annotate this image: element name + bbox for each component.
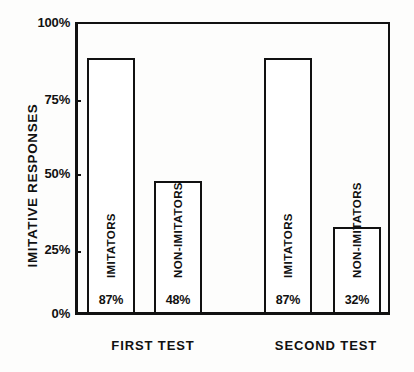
bar-value-first-test-non-imitators: 48% (156, 293, 200, 307)
bar-value-second-test-imitators: 87% (266, 293, 310, 307)
bar-first-test-non-imitators: NON-IMITATORS 48% (154, 181, 202, 312)
bar-label-first-test-non-imitators: NON-IMITATORS (166, 182, 178, 278)
y-tick-label-50: 50% (26, 166, 70, 181)
bar-label-second-test-non-imitators: NON-IMITATORS (345, 182, 357, 278)
y-tick-label-0: 0% (26, 306, 70, 321)
bar-first-test-imitators: IMITATORS 87% (87, 58, 135, 312)
bar-second-test-imitators: IMITATORS 87% (264, 58, 312, 312)
y-tick-label-25: 25% (26, 242, 70, 257)
y-axis-tick-labels: 100% 75% 50% 25% 0% (20, 0, 70, 372)
bar-value-second-test-non-imitators: 32% (335, 293, 379, 307)
y-tick-label-75: 75% (26, 92, 70, 107)
x-group-label-second-test: SECOND TEST (256, 338, 396, 353)
bar-value-first-test-imitators: 87% (89, 293, 133, 307)
plot-area: IMITATORS 87% NON-IMITATORS 48% IMITATOR… (75, 22, 390, 315)
x-group-label-first-test: FIRST TEST (88, 338, 218, 353)
bar-label-first-test-imitators: IMITATORS (99, 213, 111, 278)
bar-chart: IMITATIVE RESPONSES 100% 75% 50% 25% 0% … (0, 0, 414, 372)
y-tick-label-100: 100% (26, 15, 70, 30)
bar-label-second-test-imitators: IMITATORS (276, 213, 288, 278)
bar-second-test-non-imitators: NON-IMITATORS 32% (333, 227, 381, 312)
